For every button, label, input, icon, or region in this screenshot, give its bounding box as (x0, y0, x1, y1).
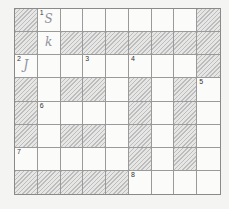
shaded-cell (129, 32, 152, 55)
crossword-grid: 1Sk2J345678 (14, 8, 221, 195)
answer-cell[interactable] (197, 148, 220, 171)
shaded-cell (61, 171, 84, 194)
answer-cell[interactable]: 8 (129, 171, 152, 194)
clue-number: 8 (131, 171, 135, 179)
pencil-entry: k (38, 35, 60, 49)
pencil-entry: J (15, 58, 37, 72)
answer-cell[interactable]: 1S (38, 9, 61, 32)
answer-cell[interactable] (152, 55, 175, 78)
answer-cell[interactable]: 5 (197, 78, 220, 101)
answer-cell[interactable]: 3 (83, 55, 106, 78)
answer-cell[interactable]: 4 (129, 55, 152, 78)
answer-cell[interactable] (152, 102, 175, 125)
shaded-cell (15, 9, 38, 32)
shaded-cell (129, 125, 152, 148)
shaded-cell (197, 55, 220, 78)
answer-cell[interactable] (152, 78, 175, 101)
answer-cell[interactable] (197, 171, 220, 194)
shaded-cell (15, 78, 38, 101)
answer-cell[interactable] (174, 55, 197, 78)
shaded-cell (61, 78, 84, 101)
answer-cell[interactable]: k (38, 32, 61, 55)
answer-cell[interactable] (152, 148, 175, 171)
shaded-cell (83, 171, 106, 194)
shaded-cell (129, 148, 152, 171)
answer-cell[interactable] (197, 102, 220, 125)
shaded-cell (15, 171, 38, 194)
answer-cell[interactable] (83, 102, 106, 125)
answer-cell[interactable] (197, 125, 220, 148)
answer-cell[interactable] (61, 102, 84, 125)
clue-number: 4 (131, 55, 135, 63)
answer-cell[interactable] (152, 171, 175, 194)
answer-cell[interactable] (106, 78, 129, 101)
shaded-cell (106, 32, 129, 55)
shaded-cell (83, 78, 106, 101)
answer-cell[interactable] (61, 55, 84, 78)
answer-cell[interactable] (38, 125, 61, 148)
shaded-cell (61, 32, 84, 55)
answer-cell[interactable] (61, 148, 84, 171)
shaded-cell (61, 125, 84, 148)
answer-cell[interactable]: 6 (38, 102, 61, 125)
shaded-cell (152, 32, 175, 55)
pencil-entry: S (38, 12, 60, 26)
answer-cell[interactable]: 7 (15, 148, 38, 171)
shaded-cell (174, 32, 197, 55)
answer-cell[interactable] (106, 55, 129, 78)
shaded-cell (129, 78, 152, 101)
shaded-cell (38, 171, 61, 194)
clue-number: 5 (199, 78, 203, 86)
shaded-cell (15, 32, 38, 55)
shaded-cell (174, 125, 197, 148)
answer-cell[interactable]: 2J (15, 55, 38, 78)
clue-number: 3 (85, 55, 89, 63)
shaded-cell (174, 102, 197, 125)
clue-number: 6 (40, 102, 44, 110)
answer-cell[interactable] (129, 9, 152, 32)
clue-number: 7 (17, 148, 21, 156)
shaded-cell (106, 171, 129, 194)
answer-cell[interactable] (106, 102, 129, 125)
shaded-cell (15, 125, 38, 148)
shaded-cell (15, 102, 38, 125)
answer-cell[interactable] (83, 148, 106, 171)
shaded-cell (174, 148, 197, 171)
shaded-cell (174, 78, 197, 101)
shaded-cell (197, 9, 220, 32)
answer-cell[interactable] (174, 171, 197, 194)
answer-cell[interactable] (38, 148, 61, 171)
answer-cell[interactable] (152, 9, 175, 32)
shaded-cell (83, 32, 106, 55)
answer-cell[interactable] (61, 9, 84, 32)
shaded-cell (197, 32, 220, 55)
answer-cell[interactable] (106, 9, 129, 32)
shaded-cell (129, 102, 152, 125)
answer-cell[interactable] (174, 9, 197, 32)
answer-cell[interactable] (152, 125, 175, 148)
answer-cell[interactable] (38, 78, 61, 101)
answer-cell[interactable] (106, 148, 129, 171)
answer-cell[interactable] (38, 55, 61, 78)
shaded-cell (83, 125, 106, 148)
answer-cell[interactable] (83, 9, 106, 32)
answer-cell[interactable] (106, 125, 129, 148)
